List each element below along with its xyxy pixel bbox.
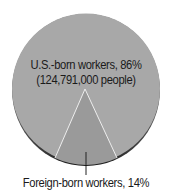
foreign-born-label: Foreign-born workers, 14% xyxy=(12,175,160,190)
us-born-label-line2: (124,791,000 people) xyxy=(12,72,160,87)
us-born-label-line1: U.S.-born workers, 86% xyxy=(12,57,160,72)
pie-chart xyxy=(0,0,172,192)
us-born-label: U.S.-born workers, 86% (124,791,000 peop… xyxy=(12,57,160,87)
